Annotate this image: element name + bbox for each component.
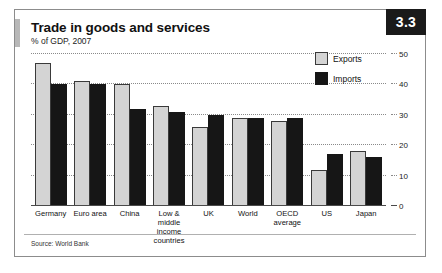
source-note: Source: World Bank bbox=[31, 240, 89, 247]
x-tick-label: UK bbox=[189, 209, 228, 245]
y-tick-label: 10 bbox=[399, 171, 408, 180]
bar-imports bbox=[248, 118, 264, 206]
bar-group bbox=[31, 54, 70, 206]
y-tick-mark bbox=[391, 53, 397, 54]
y-tick-label: 30 bbox=[399, 110, 408, 119]
bar-exports bbox=[232, 118, 248, 206]
chart-figure: 3.3 Trade in goods and services % of GDP… bbox=[14, 9, 426, 257]
x-tick-label: China bbox=[110, 209, 149, 245]
x-tick-label: US bbox=[307, 209, 346, 245]
bar-group bbox=[228, 54, 267, 206]
axis-baseline bbox=[31, 205, 386, 206]
bar-imports bbox=[327, 154, 343, 206]
legend-item-imports: Imports bbox=[315, 72, 385, 85]
bar-exports bbox=[114, 84, 130, 206]
bar-group bbox=[110, 54, 149, 206]
bar-imports bbox=[130, 109, 146, 206]
bar-imports bbox=[366, 157, 382, 206]
title-accent-bar bbox=[15, 19, 20, 47]
chart-subtitle: % of GDP, 2007 bbox=[31, 36, 91, 46]
bar-group bbox=[268, 54, 307, 206]
bar-exports bbox=[35, 63, 51, 206]
y-tick-label: 20 bbox=[399, 141, 408, 150]
bar-group bbox=[149, 54, 188, 206]
chart-number-badge: 3.3 bbox=[386, 9, 426, 35]
x-tick-label: Japan bbox=[347, 209, 386, 245]
y-tick-label: 0 bbox=[399, 202, 403, 211]
bar-exports bbox=[350, 151, 366, 206]
imports-swatch-icon bbox=[315, 72, 328, 85]
bar-group bbox=[189, 54, 228, 206]
legend-item-exports: Exports bbox=[315, 52, 385, 65]
bar-exports bbox=[153, 106, 169, 206]
bar-exports bbox=[74, 81, 90, 206]
y-tick-mark bbox=[391, 205, 397, 206]
x-tick-label: Low & middle income countries bbox=[149, 209, 188, 245]
bar-imports bbox=[169, 112, 185, 206]
y-axis: 01020304050 bbox=[391, 54, 421, 206]
y-tick-mark bbox=[391, 83, 397, 84]
bar-exports bbox=[192, 127, 208, 206]
y-tick-mark bbox=[391, 114, 397, 115]
chart-legend: Exports Imports bbox=[315, 52, 385, 92]
chart-title: Trade in goods and services bbox=[31, 20, 210, 35]
bar-imports bbox=[287, 118, 303, 206]
bar-exports bbox=[271, 121, 287, 206]
y-tick-mark bbox=[391, 175, 397, 176]
bar-imports bbox=[208, 115, 224, 206]
bar-imports bbox=[90, 84, 106, 206]
legend-label-imports: Imports bbox=[333, 74, 361, 84]
x-tick-label: World bbox=[228, 209, 267, 245]
footer-divider bbox=[24, 234, 416, 235]
x-tick-label: OECD average bbox=[268, 209, 307, 245]
exports-swatch-icon bbox=[315, 52, 328, 65]
bar-imports bbox=[51, 84, 67, 206]
y-tick-label: 50 bbox=[399, 50, 408, 59]
y-tick-label: 40 bbox=[399, 80, 408, 89]
bar-group bbox=[70, 54, 109, 206]
y-tick-mark bbox=[391, 144, 397, 145]
bar-exports bbox=[311, 170, 327, 206]
legend-label-exports: Exports bbox=[333, 54, 362, 64]
